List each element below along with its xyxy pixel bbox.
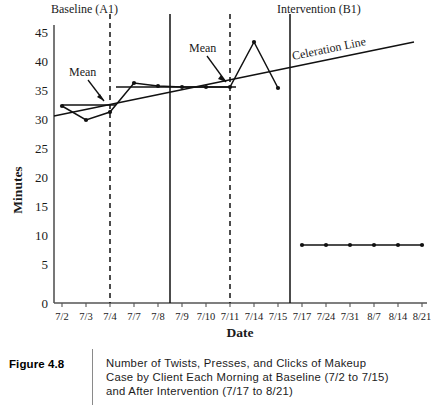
phase-label-intervention: Intervention (B1) [277, 2, 361, 16]
figure-4-8: 45 40 35 30 25 20 15 10 5 0 Minutes [0, 0, 433, 413]
data-point [156, 84, 160, 88]
y-tick-30: 30 [35, 112, 48, 127]
data-point [300, 243, 304, 247]
x-tick-label-1: 7/3 [79, 311, 92, 322]
x-tick-label-3: 7/7 [127, 311, 140, 322]
figure-number-label: Figure 4.8 [0, 347, 92, 370]
x-tick-label-4: 7/8 [151, 311, 164, 322]
x-tick-label-6: 7/10 [197, 311, 216, 322]
data-point [84, 118, 88, 122]
data-point [276, 86, 280, 90]
data-point [252, 40, 256, 44]
mean-annotation-label-1: Mean [69, 65, 96, 79]
caption-line-3: and After Intervention (7/17 to 8/21) [106, 384, 433, 398]
mean-annotation-label-2: Mean [189, 41, 216, 55]
data-point [60, 104, 64, 108]
x-tick-label-11: 7/24 [317, 311, 336, 322]
chart-plot-area: 45 40 35 30 25 20 15 10 5 0 Minutes [0, 0, 433, 340]
y-tick-25: 25 [35, 141, 48, 156]
x-tick-label-9: 7/15 [269, 311, 288, 322]
x-tick-label-0: 7/2 [55, 311, 68, 322]
mean-arrow-head-1 [97, 94, 104, 101]
data-point [324, 243, 328, 247]
y-tick-10: 10 [35, 228, 48, 243]
x-tick-label-7: 7/11 [221, 311, 239, 322]
data-point [348, 243, 352, 247]
x-axis-title: Date [227, 325, 254, 340]
data-point [228, 85, 232, 89]
x-tick-label-5: 7/9 [175, 311, 188, 322]
y-axis-title: Minutes [10, 166, 25, 213]
y-tick-45: 45 [35, 25, 48, 40]
y-tick-35: 35 [35, 83, 48, 98]
single-subject-line-chart: 45 40 35 30 25 20 15 10 5 0 Minutes [0, 0, 433, 340]
data-point [396, 243, 400, 247]
x-tick-label-12: 7/31 [341, 311, 360, 322]
caption-line-2: Case by Client Each Morning at Baseline … [106, 370, 433, 384]
y-tick-40: 40 [35, 54, 48, 69]
figure-caption: Figure 4.8 Number of Twists, Presses, an… [0, 347, 433, 409]
data-point [108, 110, 112, 114]
celeration-line-label: Celeration Line [291, 34, 367, 63]
data-point [132, 81, 136, 85]
y-tick-5: 5 [42, 257, 49, 272]
x-tick-label-13: 8/7 [367, 311, 380, 322]
data-point [420, 243, 424, 247]
data-point [180, 85, 184, 89]
y-tick-15: 15 [35, 199, 48, 214]
figure-caption-text: Number of Twists, Presses, and Clicks of… [93, 347, 433, 399]
x-tick-label-2: 7/4 [103, 311, 117, 322]
x-tick-label-14: 8/14 [389, 311, 408, 322]
x-tick-label-8: 7/14 [245, 311, 264, 322]
caption-line-1: Number of Twists, Presses, and Clicks of… [106, 356, 433, 370]
y-tick-0: 0 [42, 296, 49, 311]
phase-label-baseline: Baseline (A1) [51, 2, 118, 16]
data-point [204, 85, 208, 89]
x-tick-label-10: 7/17 [293, 311, 312, 322]
data-point [372, 243, 376, 247]
x-tick-label-15: 8/21 [413, 311, 432, 322]
y-tick-20: 20 [35, 170, 48, 185]
